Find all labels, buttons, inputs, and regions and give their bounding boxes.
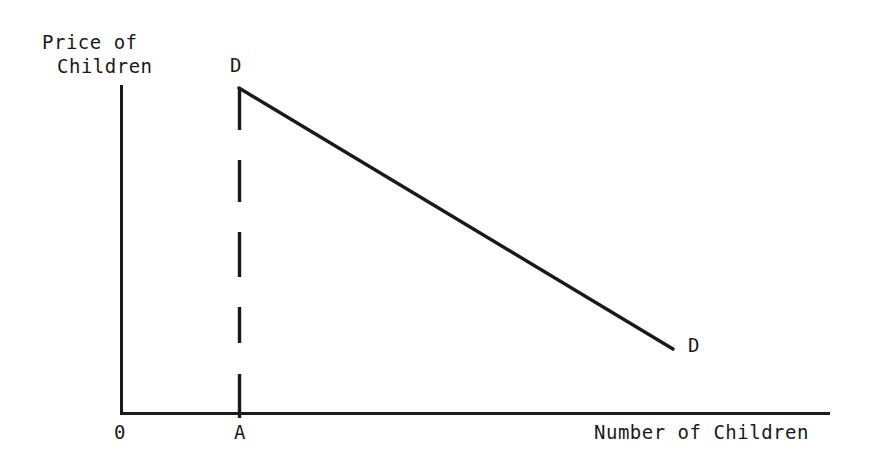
- y-axis-label-line1: Price of: [42, 31, 138, 53]
- x-axis-label: Number of Children: [594, 420, 809, 444]
- y-axis-label-line2: Children: [42, 54, 153, 78]
- x-tick-label-a: A: [234, 420, 245, 444]
- origin-label: 0: [114, 420, 125, 444]
- demand-curve-line: [239, 88, 673, 349]
- demand-curve-top-label: D: [230, 53, 241, 77]
- demand-curve-figure: Price ofChildren Number of Children 0 A …: [0, 0, 887, 464]
- demand-curve-bottom-label: D: [688, 333, 699, 357]
- y-axis-label: Price ofChildren: [42, 30, 153, 79]
